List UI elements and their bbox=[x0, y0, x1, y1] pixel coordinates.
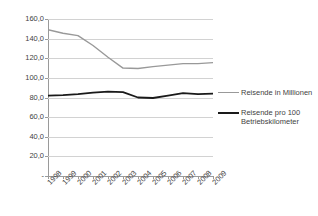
y-axis-tick-label: 40,0 bbox=[0, 133, 44, 141]
y-axis-tick-label: 160,0 bbox=[0, 15, 44, 23]
series-lines bbox=[48, 19, 213, 176]
legend-label: Reisende in Millionen bbox=[239, 88, 312, 97]
line-chart: 160,0140,0120,0100,080,060,040,020,0- 19… bbox=[0, 0, 318, 216]
legend-entry[interactable]: Reisende in Millionen bbox=[218, 88, 318, 97]
legend-line-swatch-icon bbox=[218, 109, 239, 116]
y-axis-tick-label: 60,0 bbox=[0, 113, 44, 121]
legend-label: Reisende pro 100 Betriebskilometer bbox=[239, 108, 318, 126]
chart-legend: Reisende in MillionenReisende pro 100 Be… bbox=[218, 88, 318, 137]
legend-entry[interactable]: Reisende pro 100 Betriebskilometer bbox=[218, 108, 318, 126]
y-axis-tick-label: 120,0 bbox=[0, 54, 44, 62]
y-axis-tick-label: 140,0 bbox=[0, 35, 44, 43]
series-line bbox=[48, 30, 213, 69]
y-axis-tick-label: 20,0 bbox=[0, 152, 44, 160]
y-axis-tick-label: - bbox=[0, 172, 44, 180]
series-line bbox=[48, 92, 213, 98]
legend-line-swatch-icon bbox=[218, 89, 239, 96]
y-axis-tick-label: 80,0 bbox=[0, 94, 44, 102]
x-axis-tick-label: 2009 bbox=[211, 169, 228, 186]
y-axis-tick-label: 100,0 bbox=[0, 74, 44, 82]
